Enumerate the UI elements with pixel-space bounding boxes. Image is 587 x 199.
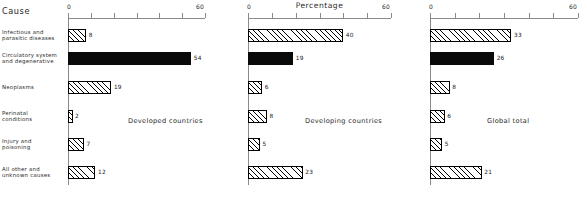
axis-end-tick	[578, 13, 579, 18]
panel-baseline-axis	[430, 18, 431, 185]
axis-tick	[504, 13, 505, 18]
panel-caption: Global total	[487, 117, 529, 125]
bar	[430, 110, 445, 123]
panel-value-axis	[430, 18, 578, 19]
bar-value-label: 6	[447, 113, 451, 119]
axis-end-tick	[430, 13, 431, 18]
axis-max-label: 60	[569, 3, 577, 10]
bar	[430, 138, 442, 151]
axis-tick	[529, 13, 530, 18]
bar-value-label: 21	[484, 169, 492, 175]
chart-figure: Cause Infectious andparasitic diseasesCi…	[0, 0, 587, 199]
axis-tick	[553, 13, 554, 18]
bar	[430, 81, 450, 94]
bar	[430, 52, 494, 65]
bar-value-label: 26	[497, 55, 505, 61]
axis-min-label: 0	[429, 3, 433, 10]
bar	[430, 29, 511, 42]
bar-value-label: 8	[452, 84, 456, 90]
axis-tick	[455, 13, 456, 18]
bar-value-label: 5	[445, 141, 449, 147]
bar	[430, 166, 482, 179]
chart-panel: 060332686521Global total	[0, 0, 587, 199]
bar-value-label: 33	[514, 32, 522, 38]
axis-tick	[479, 13, 480, 18]
